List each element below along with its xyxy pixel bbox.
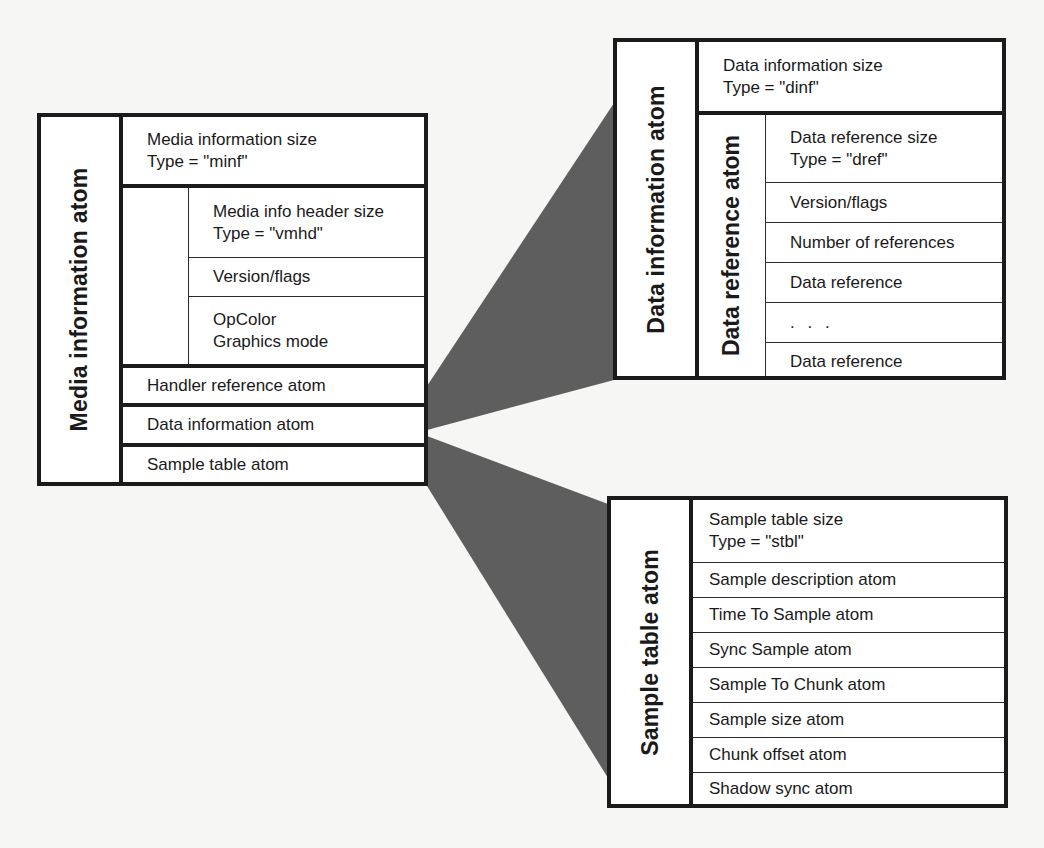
vmhd-version-flags-row: Version/flags <box>189 258 424 297</box>
vmhd-version-flags-text: Version/flags <box>213 266 424 288</box>
dref-header-row: Data reference size Type = "dref" <box>766 115 1002 183</box>
dref-ellipsis-text: . . . <box>790 312 1002 334</box>
dinf-expansion-wedge <box>427 103 614 430</box>
vmhd-type-text: Type = "vmhd" <box>213 223 424 245</box>
dref-data-reference-last-row: Data reference <box>766 343 1002 380</box>
stbl-expansion-wedge <box>427 436 608 778</box>
sync-sample-atom-row: Sync Sample atom <box>693 633 1004 668</box>
media-information-atom-label-column: Media information atom <box>41 117 123 482</box>
handler-reference-atom-row: Handler reference atom <box>123 368 424 407</box>
dref-type-text: Type = "dref" <box>790 149 1002 171</box>
shadow-sync-atom-row: Shadow sync atom <box>693 773 1004 804</box>
sample-table-atom-label-column: Sample table atom <box>611 500 693 804</box>
sync-sample-atom-text: Sync Sample atom <box>709 639 1004 661</box>
stbl-header-row: Sample table size Type = "stbl" <box>693 500 1004 563</box>
chunk-offset-atom-text: Chunk offset atom <box>709 744 1004 766</box>
data-information-atom-text: Data information atom <box>147 414 424 436</box>
dref-data-reference-last-text: Data reference <box>790 351 1002 373</box>
vmhd-opcolor-text: OpColor <box>213 309 424 331</box>
sample-table-atom-box: Sample table atom Sample table size Type… <box>607 496 1008 808</box>
stbl-type-text: Type = "stbl" <box>709 531 1004 553</box>
dref-size-text: Data reference size <box>790 127 1002 149</box>
data-information-atom-box: Data information atom Data information s… <box>613 38 1006 380</box>
time-to-sample-atom-row: Time To Sample atom <box>693 598 1004 633</box>
chunk-offset-atom-row: Chunk offset atom <box>693 738 1004 773</box>
dinf-type-text: Type = "dinf" <box>723 77 1002 99</box>
dref-number-of-references-text: Number of references <box>790 232 1002 254</box>
dref-data-reference-text: Data reference <box>790 272 1002 294</box>
minf-type-text: Type = "minf" <box>147 151 424 173</box>
data-information-atom-label: Data information atom <box>643 85 670 333</box>
stbl-size-text: Sample table size <box>709 509 1004 531</box>
media-information-atom-label: Media information atom <box>67 168 94 432</box>
media-information-atom-box: Media information atom Media information… <box>37 113 428 486</box>
sample-size-atom-text: Sample size atom <box>709 709 1004 731</box>
minf-header-row: Media information size Type = "minf" <box>123 117 424 188</box>
dref-version-flags-text: Version/flags <box>790 192 1002 214</box>
dinf-size-text: Data information size <box>723 55 1002 77</box>
dref-data-reference-row: Data reference <box>766 263 1002 303</box>
dref-version-flags-row: Version/flags <box>766 183 1002 223</box>
sample-table-atom-row: Sample table atom <box>123 447 424 482</box>
handler-reference-atom-text: Handler reference atom <box>147 375 424 397</box>
sample-table-atom-text: Sample table atom <box>147 454 424 476</box>
vmhd-label-column <box>123 188 189 364</box>
minf-size-text: Media information size <box>147 129 424 151</box>
sample-to-chunk-atom-text: Sample To Chunk atom <box>709 674 1004 696</box>
sample-size-atom-row: Sample size atom <box>693 703 1004 738</box>
sample-description-atom-text: Sample description atom <box>709 569 1004 591</box>
vmhd-opcolor-row: OpColor Graphics mode <box>189 297 424 364</box>
data-reference-atom-label: Data reference atom <box>719 135 746 356</box>
data-information-atom-label-column: Data information atom <box>617 42 699 376</box>
video-media-header-block: Media info header size Type = "vmhd" Ver… <box>123 188 424 368</box>
sample-description-atom-row: Sample description atom <box>693 563 1004 598</box>
data-reference-atom-label-column: Data reference atom <box>699 115 766 376</box>
dinf-header-row: Data information size Type = "dinf" <box>699 42 1002 115</box>
vmhd-header-row: Media info header size Type = "vmhd" <box>189 188 424 258</box>
data-information-atom-row: Data information atom <box>123 407 424 447</box>
data-reference-atom-block: Data reference atom Data reference size … <box>699 115 1002 376</box>
sample-table-atom-label: Sample table atom <box>637 549 664 756</box>
dref-number-of-references-row: Number of references <box>766 223 1002 263</box>
time-to-sample-atom-text: Time To Sample atom <box>709 604 1004 626</box>
sample-to-chunk-atom-row: Sample To Chunk atom <box>693 668 1004 703</box>
shadow-sync-atom-text: Shadow sync atom <box>709 778 1004 800</box>
vmhd-size-text: Media info header size <box>213 201 424 223</box>
dref-ellipsis-row: . . . <box>766 303 1002 343</box>
vmhd-graphics-mode-text: Graphics mode <box>213 331 424 353</box>
